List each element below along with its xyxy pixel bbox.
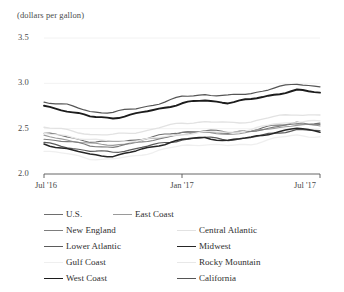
legend-line-swatch-icon <box>44 262 63 263</box>
legend-item-central-atlantic[interactable]: Central Atlantic <box>177 222 257 238</box>
legend-line-swatch-icon <box>177 246 196 247</box>
price-chart: (dollars per gallon) 2.02.53.03.5 Jul '1… <box>0 0 344 292</box>
legend-item-east-coast[interactable]: East Coast <box>113 206 174 222</box>
legend-line-swatch-icon <box>177 262 196 263</box>
legend-label-central-atlantic: Central Atlantic <box>199 225 257 235</box>
x-tick-label-0: Jul '16 <box>35 180 57 190</box>
legend-item-gulf-coast[interactable]: Gulf Coast <box>44 254 106 270</box>
plot-svg <box>0 26 344 186</box>
x-tick-label-1: Jan '17 <box>158 180 206 190</box>
y-tick-label-3.5: 3.5 <box>18 32 29 42</box>
legend-item-new-england[interactable]: New England <box>44 222 116 238</box>
legend-row-2: Lower AtlanticMidwest <box>0 238 344 254</box>
chart-legend: U.S.East CoastNew EnglandCentral Atlanti… <box>0 206 344 292</box>
legend-label-rocky-mountain: Rocky Mountain <box>199 257 260 267</box>
legend-line-swatch-icon <box>177 278 196 279</box>
plot-area: 2.02.53.03.5 <box>0 26 344 186</box>
x-tick-label-2: Jul '17 <box>281 180 329 190</box>
legend-label-california: California <box>199 273 236 283</box>
legend-row-0: U.S.East Coast <box>0 206 344 222</box>
legend-line-swatch-icon <box>44 214 63 215</box>
legend-line-swatch-icon <box>44 278 63 279</box>
legend-item-lower-atlantic[interactable]: Lower Atlantic <box>44 238 121 254</box>
y-axis-unit-label: (dollars per gallon) <box>17 10 84 20</box>
y-tick-label-3: 3.0 <box>18 77 29 87</box>
legend-label-gulf-coast: Gulf Coast <box>66 257 106 267</box>
legend-row-3: Gulf CoastRocky Mountain <box>0 254 344 270</box>
legend-item-west-coast[interactable]: West Coast <box>44 270 107 286</box>
series-line-west-coast <box>44 89 320 118</box>
series-lines <box>44 84 320 160</box>
legend-label-east-coast: East Coast <box>135 209 174 219</box>
y-tick-label-2.5: 2.5 <box>18 123 29 133</box>
legend-line-swatch-icon <box>177 230 196 231</box>
legend-label-lower-atlantic: Lower Atlantic <box>66 241 121 251</box>
y-tick-label-2: 2.0 <box>18 168 29 178</box>
legend-label-u-s: U.S. <box>66 209 82 219</box>
legend-item-midwest[interactable]: Midwest <box>177 238 231 254</box>
legend-item-california[interactable]: California <box>177 270 236 286</box>
legend-item-rocky-mountain[interactable]: Rocky Mountain <box>177 254 260 270</box>
legend-line-swatch-icon <box>113 214 132 215</box>
legend-label-west-coast: West Coast <box>66 273 107 283</box>
legend-row-1: New EnglandCentral Atlantic <box>0 222 344 238</box>
legend-line-swatch-icon <box>44 246 63 247</box>
legend-item-u-s[interactable]: U.S. <box>44 206 82 222</box>
legend-label-midwest: Midwest <box>199 241 231 251</box>
legend-line-swatch-icon <box>44 230 63 231</box>
series-line-california <box>44 84 320 113</box>
legend-row-4: West CoastCalifornia <box>0 270 344 286</box>
legend-label-new-england: New England <box>66 225 116 235</box>
x-axis <box>44 174 320 178</box>
